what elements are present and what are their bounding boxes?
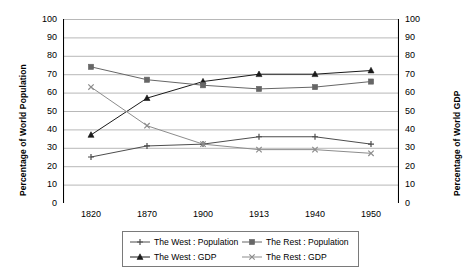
y-axis-left-tick-label: 70 <box>33 70 57 79</box>
y-axis-right-tick-label: 10 <box>405 180 429 189</box>
y-axis-right-tick-label: 50 <box>405 107 429 116</box>
series-line <box>91 71 371 135</box>
data-point-marker <box>144 77 149 82</box>
legend-swatch-cross-icon <box>241 252 263 262</box>
data-point-marker <box>368 67 374 73</box>
y-axis-left-tick-label: 30 <box>33 143 57 152</box>
y-axis-left-tick-label: 40 <box>33 125 57 134</box>
data-point-marker <box>312 134 318 140</box>
y-axis-left-tick-label: 80 <box>33 51 57 60</box>
legend-label: The Rest : GDP <box>266 253 327 262</box>
legend-item-0[interactable]: The West : Population <box>129 237 238 247</box>
y-axis-right-tick-label: 40 <box>405 125 429 134</box>
y-axis-left-tick-label: 0 <box>33 199 57 208</box>
legend-item-2[interactable]: The Rest : Population <box>241 237 349 247</box>
series-line <box>91 87 371 153</box>
x-axis-tick-label: 1820 <box>71 210 111 219</box>
data-point-marker <box>88 154 94 160</box>
legend-label: The Rest : Population <box>266 238 349 247</box>
data-point-marker <box>137 239 143 245</box>
x-axis-tick-label: 1950 <box>351 210 391 219</box>
y-axis-left-tick-label: 90 <box>33 33 57 42</box>
legend-swatch-square-icon <box>241 237 263 247</box>
chart-svg <box>63 19 399 203</box>
y-axis-right-tick-label: 0 <box>405 199 429 208</box>
data-point-marker <box>368 141 374 147</box>
y-axis-left-tick-label: 20 <box>33 162 57 171</box>
series-3 <box>88 84 373 156</box>
data-point-marker <box>256 134 262 140</box>
data-point-marker <box>144 123 149 128</box>
legend-swatch-plus-icon <box>129 237 151 247</box>
data-point-marker <box>200 83 205 88</box>
legend-item-3[interactable]: The Rest : GDP <box>241 252 327 262</box>
y-axis-right-tick-label: 30 <box>405 143 429 152</box>
legend-label: The West : Population <box>154 238 238 247</box>
y-axis-left-tick-label: 10 <box>33 180 57 189</box>
data-point-marker <box>249 239 254 244</box>
legend-label: The West : GDP <box>154 253 216 262</box>
data-point-marker <box>368 79 373 84</box>
y-axis-right-title: Percentage of World GDP <box>452 90 462 196</box>
y-axis-right-tick-label: 100 <box>405 15 429 24</box>
data-point-marker <box>88 64 93 69</box>
y-axis-left-title: Percentage of World Population <box>18 64 28 196</box>
y-axis-right-tick-label: 70 <box>405 70 429 79</box>
y-axis-left-tick-label: 50 <box>33 107 57 116</box>
y-axis-right-tick-label: 60 <box>405 88 429 97</box>
legend-swatch-triangle-icon <box>129 252 151 262</box>
x-axis-tick-label: 1913 <box>239 210 279 219</box>
chart-container: Percentage of World Population Percentag… <box>0 0 466 275</box>
chart-legend: The West : PopulationThe Rest : Populati… <box>122 231 359 267</box>
y-axis-right-tick-label: 90 <box>405 33 429 42</box>
y-axis-left-tick-label: 60 <box>33 88 57 97</box>
series-1 <box>88 67 374 137</box>
data-point-marker <box>88 84 93 89</box>
data-point-marker <box>312 84 317 89</box>
x-axis-tick-label: 1870 <box>127 210 167 219</box>
data-point-marker <box>256 86 261 91</box>
y-axis-right-tick-label: 20 <box>405 162 429 171</box>
legend-item-1[interactable]: The West : GDP <box>129 252 216 262</box>
y-axis-right-tick-label: 80 <box>405 51 429 60</box>
plot-area <box>63 19 399 203</box>
data-point-marker <box>88 132 94 138</box>
y-axis-left-tick-label: 100 <box>33 15 57 24</box>
x-axis-tick-label: 1900 <box>183 210 223 219</box>
x-axis-tick-label: 1940 <box>295 210 335 219</box>
